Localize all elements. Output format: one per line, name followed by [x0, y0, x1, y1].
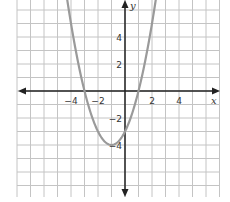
x-axis-right-arrow-icon — [212, 88, 220, 95]
y-tick-label: 4 — [116, 33, 122, 43]
axes — [18, 0, 220, 197]
x-tick-label: 2 — [149, 96, 155, 106]
x-tick-label: 4 — [176, 96, 182, 106]
parabola-graph: −4−22442−2−4 x y — [0, 0, 230, 202]
y-axis-down-arrow-icon — [122, 189, 129, 197]
x-axis-label: x — [211, 95, 217, 106]
grid-lines — [17, 0, 220, 197]
y-tick-label: −2 — [109, 114, 122, 124]
y-axis-label: y — [129, 0, 136, 11]
x-tick-label: −2 — [91, 96, 104, 106]
y-axis-up-arrow-icon — [122, 0, 129, 8]
x-axis-left-arrow-icon — [18, 88, 26, 95]
x-tick-label: −4 — [64, 96, 78, 106]
y-tick-label: 2 — [116, 60, 122, 70]
